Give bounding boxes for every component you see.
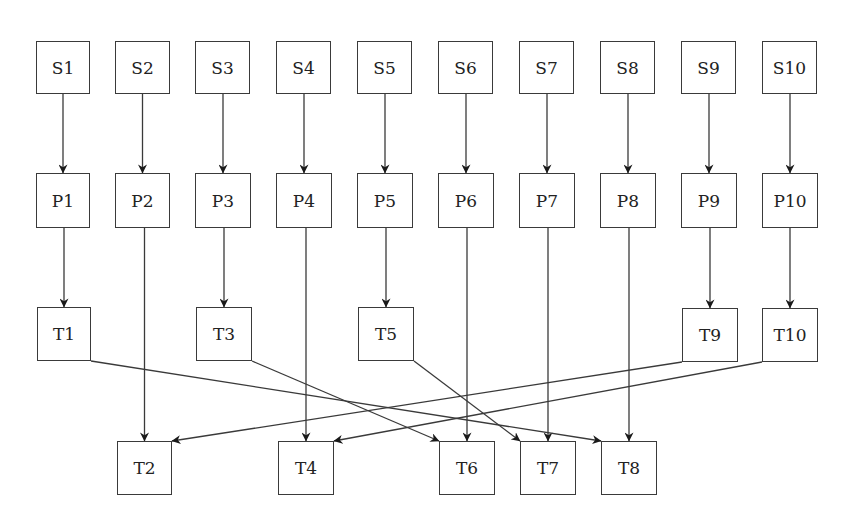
node-label: S4: [292, 58, 314, 78]
node-label: S9: [697, 58, 719, 78]
node-label: P9: [698, 191, 720, 211]
node-t4: T4: [278, 441, 334, 495]
node-s9: S9: [681, 41, 736, 94]
node-label: T4: [295, 458, 317, 478]
node-label: T1: [53, 324, 75, 344]
node-label: S7: [535, 58, 557, 78]
node-label: T2: [133, 458, 155, 478]
node-label: P5: [374, 191, 396, 211]
node-label: S5: [373, 58, 395, 78]
node-t1: T1: [37, 307, 91, 361]
node-label: S2: [131, 58, 153, 78]
node-label: P3: [212, 191, 234, 211]
node-p3: P3: [195, 173, 251, 228]
node-s8: S8: [600, 41, 655, 94]
edge-t9-to-t2: [172, 362, 682, 441]
node-label: S1: [52, 58, 74, 78]
node-s6: S6: [438, 41, 493, 94]
node-t8: T8: [601, 441, 657, 495]
node-t3: T3: [196, 307, 252, 361]
flow-diagram: S1S2S3S4S5S6S7S8S9S10P1P2P3P4P5P6P7P8P9P…: [0, 0, 855, 523]
node-label: T8: [618, 458, 640, 478]
node-s5: S5: [357, 41, 412, 94]
node-label: P7: [536, 191, 558, 211]
node-label: T10: [774, 325, 807, 345]
node-p8: P8: [600, 173, 656, 228]
node-p5: P5: [357, 173, 413, 228]
node-label: T5: [375, 324, 397, 344]
node-s1: S1: [36, 41, 90, 94]
node-s7: S7: [519, 41, 574, 94]
node-p7: P7: [519, 173, 575, 228]
node-label: S6: [454, 58, 476, 78]
node-t9: T9: [682, 308, 738, 362]
node-p4: P4: [276, 173, 332, 228]
node-label: P1: [52, 191, 74, 211]
node-label: S8: [616, 58, 638, 78]
node-label: P10: [773, 191, 806, 211]
node-s10: S10: [762, 41, 817, 94]
node-s3: S3: [195, 41, 250, 94]
node-label: P2: [131, 191, 153, 211]
node-label: T9: [699, 325, 721, 345]
node-t6: T6: [439, 441, 495, 495]
node-t7: T7: [520, 441, 576, 495]
node-label: P6: [455, 191, 477, 211]
node-label: T3: [213, 324, 235, 344]
node-p1: P1: [36, 173, 90, 228]
node-t5: T5: [358, 307, 414, 361]
node-p2: P2: [115, 173, 170, 228]
node-p9: P9: [681, 173, 737, 228]
node-label: S10: [773, 58, 806, 78]
node-s2: S2: [115, 41, 170, 94]
node-label: T6: [456, 458, 478, 478]
node-t2: T2: [117, 441, 172, 495]
edge-group: [63, 94, 790, 441]
node-label: T7: [537, 458, 559, 478]
node-label: P4: [293, 191, 315, 211]
node-s4: S4: [276, 41, 331, 94]
edge-t3-to-t6: [252, 361, 439, 441]
node-p6: P6: [438, 173, 494, 228]
node-label: P8: [617, 191, 639, 211]
node-p10: P10: [762, 173, 818, 228]
node-t10: T10: [762, 308, 818, 362]
node-label: S3: [211, 58, 233, 78]
